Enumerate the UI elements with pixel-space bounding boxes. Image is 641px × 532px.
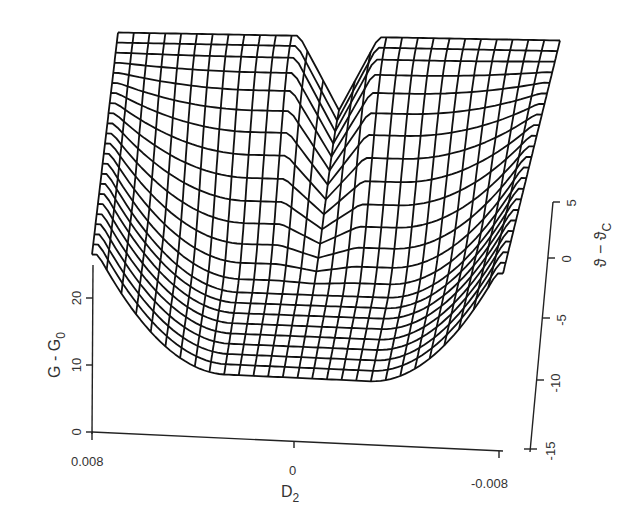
theta-tick-neg5: -5 bbox=[554, 314, 569, 326]
theta-axis-label: ϑ − ϑC bbox=[592, 222, 614, 267]
theta-tick-5: 5 bbox=[564, 199, 579, 206]
theta-tick-neg10: -10 bbox=[548, 374, 563, 393]
g-axis: 0 10 20 G - G0 bbox=[46, 265, 93, 436]
d2-tick-0.008: 0.008 bbox=[71, 454, 104, 469]
d2-tick-0: 0 bbox=[289, 463, 296, 478]
g-tick-10: 10 bbox=[69, 358, 84, 372]
d2-tick-neg0.008: -0.008 bbox=[471, 476, 508, 491]
wireframe-surface bbox=[92, 33, 560, 382]
g-axis-label: G - G0 bbox=[46, 332, 68, 378]
theta-tick-neg15: -15 bbox=[543, 442, 558, 461]
g-tick-20: 20 bbox=[69, 291, 84, 305]
surface-plot: 0 10 20 G - G0 0.008 0 -0.008 D2 5 0 -5 … bbox=[0, 0, 641, 532]
theta-axis: 5 0 -5 -10 -15 ϑ − ϑC bbox=[524, 199, 614, 460]
g-tick-0: 0 bbox=[69, 428, 84, 435]
theta-tick-0: 0 bbox=[559, 255, 574, 262]
d2-axis-label: D2 bbox=[281, 483, 300, 505]
d2-axis: 0.008 0 -0.008 D2 bbox=[71, 432, 508, 505]
